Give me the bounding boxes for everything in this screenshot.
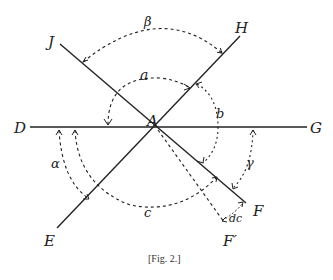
label-gamma: γ [246,155,254,170]
label-a: a [140,67,148,83]
label-A: A [145,112,158,130]
label-G: G [310,119,322,137]
label-alpha: α [51,156,60,171]
label-F: F [252,202,264,220]
arc-b [197,84,218,163]
arc-c [75,130,216,207]
label-H: H [234,19,249,37]
label-dc: dc [229,212,242,225]
label-D: D [13,119,26,137]
label-beta: β [143,14,152,29]
label-J: J [45,33,55,51]
arc-beta [83,29,222,62]
arc-alpha [59,130,88,198]
figure-diagram: D G J H E F F′ A β a b α c γ dc [Fig. 2.… [0,0,333,280]
label-b: b [216,106,224,121]
label-c: c [144,205,152,220]
label-E: E [43,232,55,250]
figure-caption: [Fig. 2.] [148,253,181,264]
label-F-prime: F′ [222,232,237,250]
